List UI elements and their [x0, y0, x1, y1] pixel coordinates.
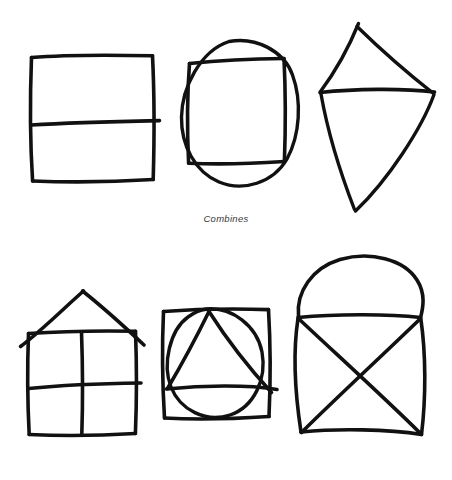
row-label-combines: Combines: [0, 213, 452, 224]
shape-kite-diamond-two-triangles: [302, 10, 452, 225]
figure-row-combines: Combines: [0, 0, 452, 240]
figure-canvas: Combines: [0, 0, 452, 480]
shape-square-with-horizontal-bisector: [18, 40, 178, 200]
shape-square-circle-triangle-overlap: [150, 300, 300, 440]
shape-square-inscribed-in-circle: [168, 25, 318, 205]
figure-row-aggregates: Aggregates: [0, 240, 452, 480]
shape-house-with-four-panes: [10, 278, 160, 458]
shape-dome-top-box-with-x: [280, 248, 440, 458]
